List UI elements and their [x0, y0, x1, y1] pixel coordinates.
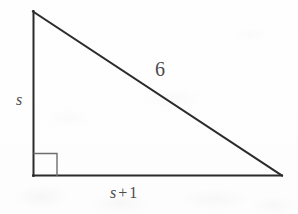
side-label-vertical-leg: s	[16, 92, 22, 108]
side-label-base: s+1	[110, 185, 137, 201]
side-label-hypotenuse: 6	[155, 59, 165, 79]
triangle-drawing	[0, 0, 298, 214]
triangle-side-hypotenuse	[33, 12, 282, 176]
figure-canvas: s 6 s+1	[0, 0, 298, 214]
right-angle-marker-icon	[34, 154, 58, 177]
side-label-base-constant: 1	[129, 184, 137, 201]
side-label-base-operator: +	[116, 184, 129, 201]
